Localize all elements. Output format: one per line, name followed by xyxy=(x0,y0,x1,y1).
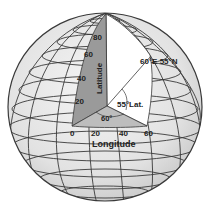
latitude-angle-label: 55°Lat. xyxy=(117,100,143,109)
latitude-tick-60: 60 xyxy=(84,50,93,59)
longitude-tick-0: 0 xyxy=(70,129,75,138)
latitude-tick-40: 40 xyxy=(77,74,86,83)
globe-diagram: 80 60 40 20 Latitude 0 20 40 60 Longitud… xyxy=(0,0,210,206)
latitude-tick-80: 80 xyxy=(93,33,102,42)
point-coordinate-label: 60°E 55°N xyxy=(140,57,178,66)
longitude-tick-60: 60 xyxy=(144,129,153,138)
longitude-axis-label: Longitude xyxy=(92,139,136,149)
latitude-tick-20: 20 xyxy=(75,97,84,106)
latitude-axis-label: Latitude xyxy=(95,62,104,94)
longitude-tick-40: 40 xyxy=(119,129,128,138)
longitude-tick-20: 20 xyxy=(91,129,100,138)
longitude-angle-label: 60° xyxy=(101,114,112,123)
